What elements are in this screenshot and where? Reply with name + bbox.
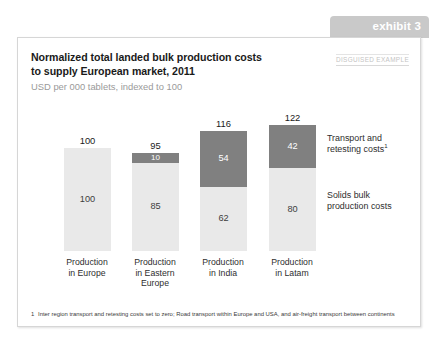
category-label-3-line2: in Latam: [275, 268, 308, 278]
bar-total-3: 122: [269, 113, 316, 123]
category-label-3-line1: Production: [271, 257, 313, 267]
legend-solids-costs: Solids bulk production costs: [327, 190, 392, 212]
exhibit-tab: exhibit 3: [330, 16, 429, 38]
category-label-2-line1: Production: [202, 257, 244, 267]
legend-solids-line1: Solids bulk: [327, 190, 370, 200]
bar-total-1: 95: [132, 141, 179, 151]
legend-transport-line1: Transport and: [327, 133, 382, 143]
bar-segment-transport-3: 42: [269, 125, 316, 168]
bar-total-2: 116: [200, 119, 247, 129]
category-label-0-line2: in Europe: [68, 268, 105, 278]
category-label-2: Production in India: [190, 257, 256, 278]
legend-solids-line2: production costs: [327, 201, 392, 211]
category-label-1-line1: Production: [134, 257, 176, 267]
bar-column-2: 116 54 62: [200, 38, 247, 328]
footnote: 1Inter region transport and retesting co…: [31, 310, 409, 318]
bar-segment-solids-1: 85: [132, 163, 179, 251]
bar-segment-transport-1: 10: [132, 153, 179, 163]
category-label-1: Production in Eastern Europe: [122, 257, 188, 289]
footnote-text: Inter region transport and retesting cos…: [38, 311, 395, 317]
exhibit-page: exhibit 3 Normalized total landed bulk p…: [0, 0, 437, 344]
bar-segment-solids-0: 100: [64, 148, 111, 251]
bar-column-0: 100 0 100: [64, 38, 111, 328]
category-label-0: Production in Europe: [54, 257, 120, 278]
bar-segment-transport-2: 54: [200, 131, 247, 187]
legend-transport-superscript: 1: [384, 143, 387, 149]
bar-column-3: 122 42 80: [269, 38, 316, 328]
category-label-3: Production in Latam: [259, 257, 325, 278]
footnote-marker: 1: [31, 310, 38, 318]
chart-plot-area: 100 0 100 Production in Europe 95 10 85 …: [18, 38, 422, 328]
exhibit-tab-label: exhibit 3: [373, 21, 421, 33]
legend-transport-costs: Transport and retesting costs1: [327, 133, 388, 155]
exhibit-card: Normalized total landed bulk production …: [17, 37, 421, 327]
legend-transport-line2: retesting costs: [327, 144, 384, 154]
category-label-1-line3: Europe: [141, 278, 169, 288]
bar-segment-solids-2: 62: [200, 187, 247, 251]
bar-segment-solids-3: 80: [269, 168, 316, 251]
category-label-0-line1: Production: [66, 257, 108, 267]
category-label-1-line2: in Eastern: [135, 268, 174, 278]
bar-total-0: 100: [64, 136, 111, 146]
category-label-2-line2: in India: [209, 268, 237, 278]
